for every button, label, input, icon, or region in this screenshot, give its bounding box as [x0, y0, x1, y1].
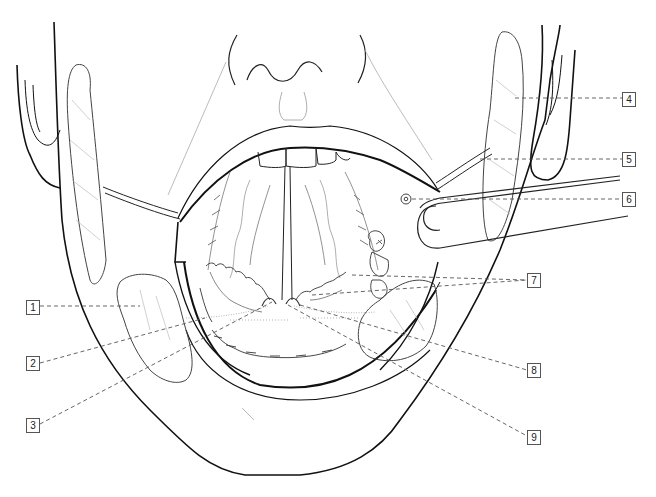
submandibular-ducts	[186, 306, 376, 318]
callout-2: 2	[26, 356, 40, 371]
tongue-underside	[208, 166, 378, 300]
parotid-gland-left	[67, 64, 106, 283]
callout-3: 3	[26, 418, 40, 433]
callout-9: 9	[527, 430, 541, 445]
anatomy-figure: 1 2 3 4 5 6 7 8 9 Open mouth with saliva…	[0, 0, 656, 497]
callout-8: 8	[527, 363, 541, 378]
callout-6: 6	[622, 192, 636, 207]
callout-7: 7	[527, 273, 541, 288]
callout-1: 1	[26, 300, 40, 315]
parotid-papilla	[401, 194, 411, 204]
callout-4: 4	[622, 92, 636, 107]
lower-teeth	[200, 231, 389, 358]
nose	[229, 35, 366, 120]
mouth-salivary-gland-illustration	[0, 0, 656, 497]
callout-5: 5	[622, 152, 636, 167]
mandible-lines	[175, 262, 440, 375]
parotid-gland-right	[483, 32, 523, 241]
